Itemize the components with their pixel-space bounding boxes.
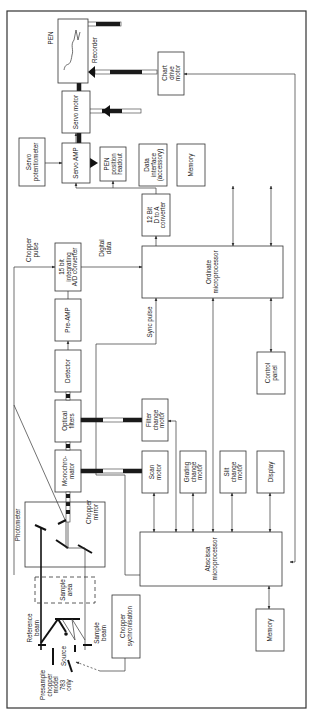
source-lamp-icon [64,632,68,636]
svg-text:Chartdrivemotor: Chartdrivemotor [161,65,181,81]
svg-text:Servo motor: Servo motor [72,95,79,129]
svg-text:Scanmotor: Scanmotor [148,464,162,480]
svg-text:Display: Display [267,461,275,482]
spectrophotometer-block-diagram: PEN Recorder Chartdrivemotor Servo motor… [0,0,312,719]
chopper-mirror-icon [58,520,66,524]
svg-text:Samplearea: Samplearea [59,579,73,601]
svg-text:Opticalfilters: Opticalfilters [61,411,75,431]
svg-text:Detector: Detector [64,359,71,383]
svg-text:Chopperpulse: Chopperpulse [25,238,40,262]
svg-text:Sync pulse: Sync pulse [146,306,154,337]
svg-text:Presamplechoppermodel783only: Presamplechoppermodel783only [39,669,73,700]
svg-text:Controlpanel: Controlpanel [264,363,279,383]
pen-label: PEN [47,31,54,44]
arrow-to-servo-pot-icon [90,158,98,168]
svg-text:Servo AMP: Servo AMP [72,147,79,179]
svg-text:Photometer: Photometer [14,509,21,542]
svg-text:Memory: Memory [266,618,274,642]
arrow-chart-drive-icon [88,66,95,78]
recorder-box [58,19,88,83]
svg-text:Choppermirror: Choppermirror [85,500,99,524]
svg-text:Memory: Memory [187,153,195,177]
arrow-servo-motor-icon [102,105,110,117]
svg-text:Referencebeam: Referencebeam [26,613,40,643]
svg-text:Samplebeam: Samplebeam [93,622,107,644]
svg-text:Source: Source [60,646,67,666]
svg-text:Gratingchangemotor: Gratingchangemotor [183,461,203,482]
svg-text:Pre-AMP: Pre-AMP [64,307,71,333]
recorder-label: Recorder [91,37,98,63]
svg-text:Digitaldata: Digitaldata [98,239,112,257]
